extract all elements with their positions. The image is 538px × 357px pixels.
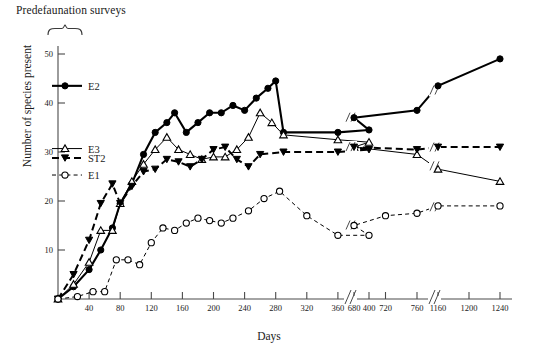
x-tick-label: 720 xyxy=(379,303,392,313)
axis-break-icon xyxy=(344,290,357,304)
series-e2 xyxy=(55,56,503,302)
x-tick-label: 120 xyxy=(145,303,158,313)
legend-item-st2: ST2 xyxy=(52,153,106,164)
data-point xyxy=(183,220,189,226)
data-point xyxy=(304,213,310,219)
data-point xyxy=(245,208,251,214)
data-point xyxy=(335,129,341,135)
x-tick-label: 200 xyxy=(207,303,220,313)
data-point xyxy=(230,215,236,221)
data-point xyxy=(186,151,194,158)
data-point xyxy=(207,218,213,224)
data-point xyxy=(351,115,357,121)
data-point xyxy=(172,227,178,233)
x-tick-label: 680 xyxy=(348,303,361,313)
data-point xyxy=(163,134,171,141)
data-point xyxy=(207,110,213,116)
data-point xyxy=(382,213,388,219)
data-point xyxy=(242,107,248,113)
data-point xyxy=(335,232,341,238)
x-tick-label: 400 xyxy=(363,303,376,313)
data-point xyxy=(55,296,61,302)
y-tick-label: 40 xyxy=(45,98,54,108)
data-point xyxy=(148,240,154,246)
legend-label: E1 xyxy=(88,170,100,181)
data-point xyxy=(435,83,441,89)
data-point xyxy=(414,107,420,113)
data-point xyxy=(195,215,201,221)
data-point xyxy=(137,262,143,268)
x-tick-label: 1160 xyxy=(430,303,447,313)
x-tick-label: 1240 xyxy=(492,303,509,313)
data-point xyxy=(245,164,252,170)
data-point xyxy=(351,222,357,228)
data-point xyxy=(195,120,201,126)
data-point xyxy=(256,109,264,116)
data-point xyxy=(273,78,279,84)
x-tick-label: 320 xyxy=(300,303,313,313)
data-point xyxy=(276,188,282,194)
data-point xyxy=(97,200,104,206)
y-tick-label: 30 xyxy=(45,147,54,157)
data-point xyxy=(62,172,68,178)
data-point xyxy=(152,129,158,135)
legend-item-e2: E2 xyxy=(52,81,100,92)
data-point xyxy=(218,220,224,226)
data-point xyxy=(265,85,271,91)
data-point xyxy=(253,95,259,101)
y-tick-label: 10 xyxy=(45,245,54,255)
data-point xyxy=(160,225,166,231)
data-point xyxy=(435,203,441,209)
x-tick-label: 40 xyxy=(85,303,94,313)
data-point xyxy=(85,259,93,266)
x-tick-label: 1200 xyxy=(461,303,478,313)
x-tick-label: 160 xyxy=(176,303,189,313)
data-point xyxy=(366,127,372,133)
x-tick-label: 360 xyxy=(332,303,345,313)
axis-break-icon xyxy=(428,290,441,304)
data-point xyxy=(164,120,170,126)
data-point xyxy=(245,134,253,141)
data-point xyxy=(140,151,146,157)
data-point xyxy=(172,110,178,116)
data-point xyxy=(98,247,104,253)
data-point xyxy=(497,56,503,62)
legend-label: E2 xyxy=(88,81,100,92)
data-point xyxy=(86,267,92,273)
data-point xyxy=(261,195,267,201)
plot-area: 1020304050408012016020024028032036040068… xyxy=(0,0,538,357)
data-point xyxy=(218,110,224,116)
x-tick-label: 240 xyxy=(238,303,251,313)
data-point xyxy=(102,289,108,295)
data-point xyxy=(230,102,236,108)
x-tick-label: 280 xyxy=(269,303,282,313)
data-point xyxy=(366,232,372,238)
x-tick-label: 80 xyxy=(116,303,125,313)
x-tick-label: 760 xyxy=(411,303,424,313)
data-point xyxy=(414,210,420,216)
data-point xyxy=(74,293,80,299)
data-point xyxy=(183,129,189,135)
data-point xyxy=(497,203,503,209)
y-tick-label: 20 xyxy=(45,196,54,206)
legend-item-e1: E1 xyxy=(52,170,100,181)
legend-label: ST2 xyxy=(88,153,106,164)
data-point xyxy=(90,289,96,295)
y-tick-label: 50 xyxy=(45,49,54,59)
data-point xyxy=(86,237,93,243)
chart-figure: Predefaunation surveys Number of species… xyxy=(0,0,538,357)
data-point xyxy=(187,164,194,170)
data-point xyxy=(113,257,119,263)
data-point xyxy=(125,257,131,263)
data-point xyxy=(62,83,68,89)
